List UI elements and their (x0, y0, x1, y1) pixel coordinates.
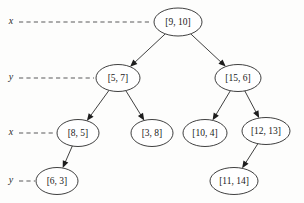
node-label-n7: [6, 3] (47, 176, 68, 186)
tree-edges (63, 34, 259, 168)
tree-node-n6[interactable]: [12, 13] (242, 118, 290, 145)
tree-node-n7[interactable]: [6, 3] (36, 168, 78, 195)
axis-marker-label-y-1: y (8, 71, 14, 82)
arrow-head-n1-to-n4 (138, 113, 144, 121)
edge-n0-to-n2 (191, 34, 222, 63)
axis-marker-label-x-2: x (8, 126, 14, 137)
edge-n2-to-n5 (216, 91, 231, 115)
node-label-n0: [9, 10] (165, 17, 190, 27)
node-label-n8: [11, 14] (219, 176, 249, 186)
diagram-canvas: [9, 10][5, 7][15, 6][8, 5][3, 8][10, 4][… (0, 0, 304, 203)
kd-tree-diagram: [9, 10][5, 7][15, 6][8, 5][3, 8][10, 4][… (0, 0, 304, 203)
tree-node-n3[interactable]: [8, 5] (57, 120, 99, 147)
edge-n3-to-n7 (65, 146, 72, 163)
node-label-n1: [5, 7] (108, 73, 129, 83)
node-label-n5: [10, 4] (192, 128, 217, 138)
node-label-n3: [8, 5] (68, 128, 89, 138)
tree-node-n2[interactable]: [15, 6] (215, 65, 261, 92)
edge-n6-to-n8 (245, 144, 258, 164)
axis-marker-lines (19, 22, 150, 181)
node-label-n2: [15, 6] (225, 73, 250, 83)
edge-n0-to-n1 (134, 34, 165, 63)
tree-node-n1[interactable]: [5, 7] (96, 65, 140, 92)
node-label-n4: [3, 8] (142, 128, 163, 138)
axis-marker-labels: xyxy (8, 15, 14, 185)
node-label-n6: [12, 13] (251, 126, 281, 136)
edge-n1-to-n4 (126, 91, 141, 116)
tree-node-n4[interactable]: [3, 8] (131, 120, 173, 147)
tree-node-n5[interactable]: [10, 4] (183, 120, 227, 147)
edge-n2-to-n6 (245, 91, 257, 113)
arrow-head-n2-to-n5 (213, 113, 219, 121)
tree-node-n0[interactable]: [9, 10] (154, 8, 202, 36)
edge-n1-to-n3 (90, 90, 109, 116)
arrow-head-n6-to-n8 (242, 161, 248, 169)
tree-node-n8[interactable]: [11, 14] (210, 168, 258, 195)
axis-marker-label-y-3: y (8, 174, 14, 185)
axis-marker-label-x-0: x (8, 15, 14, 26)
arrow-head-n1-to-n3 (87, 113, 94, 121)
